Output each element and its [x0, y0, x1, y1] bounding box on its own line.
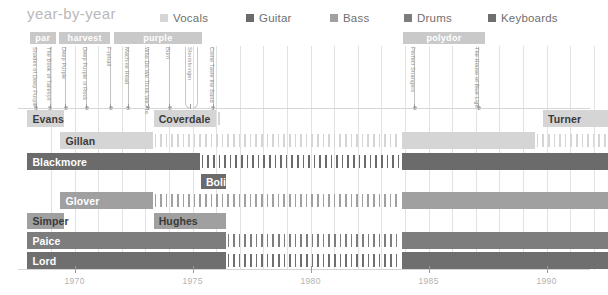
legend-swatch-drums — [404, 14, 412, 22]
member-name: Simper — [32, 215, 68, 227]
tenure-bar-gillan: Gillan — [60, 132, 152, 149]
legend-item-bass: Bass — [330, 8, 369, 22]
album-title: Deep Purple in Rock — [82, 47, 88, 100]
legend-item-keyboards: Keyboards — [488, 8, 558, 22]
tenure-bar-turner: Turner — [543, 110, 608, 127]
album-title: Come Taste the Band — [209, 47, 215, 103]
legend-label: Vocals — [173, 12, 208, 24]
tenure-gap-gillan — [535, 134, 608, 147]
member-name: Hughes — [159, 215, 198, 227]
divider-bottom — [18, 269, 590, 270]
divider-top — [18, 108, 590, 109]
tenure-bar-coverdale: Coverdale — [154, 110, 217, 127]
axis-tick-label: 1985 — [419, 276, 439, 286]
album-title: Stormbringer — [187, 47, 193, 81]
tenure-bar-simper: Simper — [27, 213, 64, 229]
album-title: Deep Purple — [61, 47, 67, 79]
record-label-par: par — [30, 32, 56, 44]
album-tick — [128, 104, 129, 109]
legend-item-guitar: Guitar — [246, 8, 292, 22]
member-name: Lord — [32, 255, 56, 267]
legend-swatch-keyboards — [488, 14, 496, 22]
tenure-bar-lord — [402, 252, 608, 269]
album-tick — [213, 104, 214, 109]
axis-tick-label: 1980 — [301, 276, 321, 286]
tenure-bar-lord: Lord — [27, 252, 225, 269]
tenure-gap-blackmore — [200, 155, 402, 168]
album-title: Who Do We Think We Are — [144, 47, 150, 114]
tenure-bar-evans: Evans — [27, 110, 64, 127]
album-title: Burn — [165, 47, 171, 59]
record-label-harvest: harvest — [59, 32, 110, 44]
album-title: Shades of Deep Purple — [32, 47, 38, 107]
album-tick — [50, 104, 51, 109]
tenure-bar-paice — [402, 232, 608, 249]
album-title: The Book of Taliesyn — [46, 47, 52, 101]
axis-tick — [547, 266, 548, 273]
album-tick — [110, 104, 111, 109]
tenure-bar-blackmore: Blackmore — [27, 153, 199, 170]
album-tick — [86, 104, 87, 109]
album-tick — [65, 104, 66, 109]
member-name: Turner — [548, 113, 581, 125]
member-name: Glover — [65, 195, 99, 207]
tenure-gap-coverdale — [216, 112, 224, 125]
album-title: Machine Head — [124, 47, 130, 84]
member-name: Blackmore — [32, 156, 87, 168]
tenure-bar-gillan — [402, 132, 535, 149]
legend-item-drums: Drums — [404, 8, 452, 22]
tenure-bar-glover — [402, 192, 608, 209]
legend-swatch-bass — [330, 14, 338, 22]
tenure-gap-glover — [153, 194, 402, 207]
album-tick — [414, 104, 415, 109]
axis-tick — [311, 266, 312, 273]
album-title: Perfect Strangers — [410, 47, 416, 92]
album-tick — [148, 104, 149, 109]
album-title: The House of Blue Light — [474, 47, 480, 109]
legend-label: Drums — [417, 12, 452, 24]
legend-swatch-guitar — [246, 14, 254, 22]
tenure-bar-blackmore — [402, 153, 608, 170]
record-label-polydor: polydor — [403, 32, 486, 44]
axis-tick — [75, 266, 76, 273]
tenure-bar-glover: Glover — [60, 192, 152, 209]
legend-label: Bass — [343, 12, 369, 24]
member-name: Coverdale — [159, 113, 211, 125]
axis-tick-label: 1970 — [65, 276, 85, 286]
tenure-bar-bolin: Bolin — [201, 174, 226, 189]
axis-tick — [429, 266, 430, 273]
legend-swatch-vocals — [160, 14, 168, 22]
legend-item-vocals: Vocals — [160, 8, 208, 22]
axis-tick — [193, 266, 194, 273]
album-tick — [190, 104, 191, 109]
member-name: Evans — [32, 113, 63, 125]
legend-label: Guitar — [259, 12, 292, 24]
axis-tick-label: 1990 — [537, 276, 557, 286]
album-tick — [169, 104, 170, 109]
tenure-bar-paice: Paice — [27, 232, 225, 249]
member-name: Bolin — [206, 176, 233, 188]
tenure-gap-paice — [226, 234, 402, 247]
tenure-bar-hughes: Hughes — [154, 213, 226, 229]
axis-tick-label: 1975 — [183, 276, 203, 286]
album-tick — [36, 104, 37, 109]
album-title: Fireball — [106, 47, 112, 66]
member-name: Gillan — [65, 135, 95, 147]
album-tick — [478, 104, 479, 109]
timeline-plot: parharvestpurplepolydor Shades of Deep P… — [0, 28, 598, 295]
tenure-gap-gillan — [153, 134, 402, 147]
legend-label: Keyboards — [501, 12, 558, 24]
chart-header: year-by-year VocalsGuitarBassDrumsKeyboa… — [0, 0, 598, 28]
page-title: year-by-year — [27, 5, 116, 22]
member-name: Paice — [32, 235, 60, 247]
tenure-gap-lord — [226, 254, 402, 267]
record-label-purple: purple — [114, 32, 203, 44]
